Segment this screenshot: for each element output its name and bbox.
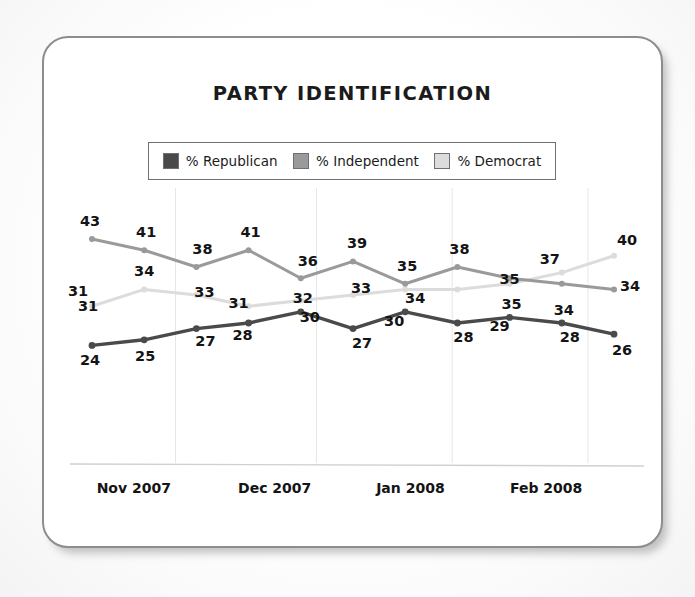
point-label: 35 [397, 258, 417, 274]
data-point[interactable] [245, 320, 252, 327]
point-label: 25 [135, 348, 155, 364]
chart-baseline [70, 464, 644, 466]
point-label: 32 [293, 290, 313, 306]
data-point[interactable] [246, 247, 252, 253]
data-point[interactable] [141, 247, 147, 253]
point-label: 27 [195, 333, 215, 349]
point-label: 30 [300, 309, 320, 325]
point-label: 38 [449, 241, 469, 257]
point-label: 37 [540, 251, 560, 267]
point-label: 30 [384, 313, 404, 329]
page-background: PARTY IDENTIFICATION % Republican % Inde… [0, 0, 695, 597]
point-label: 31 [68, 283, 88, 299]
point-label: 35 [502, 296, 522, 312]
data-point[interactable] [454, 286, 460, 292]
data-point[interactable] [559, 281, 565, 287]
point-label: 36 [298, 253, 318, 269]
x-axis-label-3: Feb 2008 [510, 480, 582, 496]
data-point[interactable] [558, 320, 565, 327]
point-label: 29 [490, 318, 510, 334]
point-label: 43 [80, 213, 100, 229]
x-axis-label-2: Jan 2008 [375, 480, 444, 496]
data-point[interactable] [350, 325, 357, 332]
data-point[interactable] [193, 264, 199, 270]
point-label: 39 [347, 235, 367, 251]
point-label: 34 [554, 302, 574, 318]
point-label: 40 [617, 232, 637, 248]
data-point[interactable] [141, 336, 148, 343]
point-label: 34 [405, 290, 425, 306]
chart-svg: 4341384136393538343134333132333537402425… [44, 38, 665, 550]
point-label: 31 [229, 295, 249, 311]
data-point[interactable] [454, 264, 460, 270]
data-point[interactable] [89, 342, 96, 349]
axis-baseline [70, 464, 644, 466]
data-point[interactable] [193, 325, 200, 332]
point-label: 28 [453, 329, 473, 345]
point-label: 41 [136, 224, 156, 240]
point-label: 33 [194, 284, 214, 300]
point-label: 24 [80, 352, 100, 368]
data-point[interactable] [89, 236, 95, 242]
line-chart-plot: 4341384136393538343134333132333537402425… [44, 38, 665, 550]
point-label: 34 [134, 263, 154, 279]
point-label: 31 [78, 298, 98, 314]
data-point[interactable] [611, 286, 617, 292]
data-point[interactable] [611, 331, 618, 338]
data-point[interactable] [298, 275, 304, 281]
data-point[interactable] [454, 320, 461, 327]
point-label: 41 [241, 224, 261, 240]
point-label: 26 [612, 342, 632, 358]
chart-x-axis-labels: Nov 2007Dec 2007Jan 2008Feb 2008 [97, 480, 583, 496]
x-axis-label-0: Nov 2007 [97, 480, 171, 496]
point-label: 28 [233, 327, 253, 343]
point-label: 28 [560, 329, 580, 345]
data-point[interactable] [350, 258, 356, 264]
point-label: 27 [352, 335, 372, 351]
x-axis-label-1: Dec 2007 [238, 480, 311, 496]
data-point[interactable] [402, 281, 408, 287]
chart-card: PARTY IDENTIFICATION % Republican % Inde… [42, 36, 663, 548]
point-label: 33 [351, 280, 371, 296]
data-point[interactable] [559, 270, 565, 276]
data-point[interactable] [611, 253, 617, 259]
point-label: 35 [500, 271, 520, 287]
point-label: 38 [192, 241, 212, 257]
data-point[interactable] [141, 286, 147, 292]
point-label: 34 [620, 278, 640, 294]
